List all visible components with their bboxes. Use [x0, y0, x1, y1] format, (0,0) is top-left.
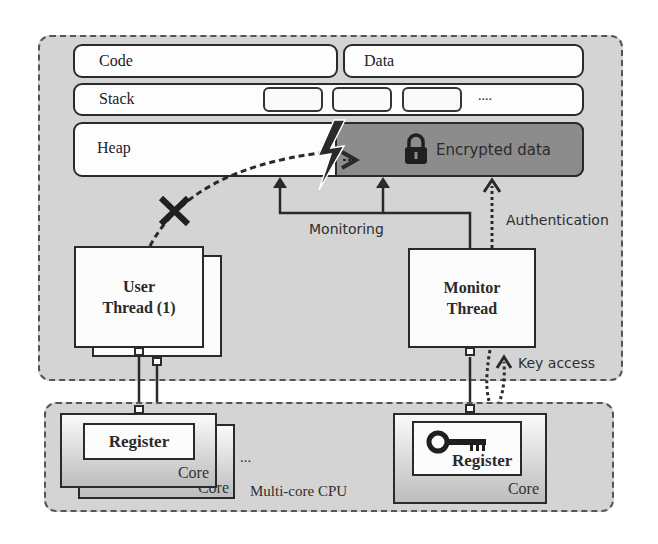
- register-left-label: Register: [109, 432, 169, 452]
- monitor-thread-line2: Thread: [444, 298, 501, 319]
- core-right-label: Core: [508, 480, 539, 498]
- core-left: Register Core: [60, 413, 217, 488]
- monitoring-label: Monitoring: [309, 221, 384, 237]
- code-segment: Code: [73, 44, 338, 78]
- user-thread-port-2: [152, 357, 162, 366]
- stack-frame-1: [263, 87, 323, 112]
- register-right-label: Register: [452, 451, 512, 471]
- data-label: Data: [364, 52, 394, 70]
- stack-segment: Stack ....: [73, 83, 584, 116]
- more-cores-ellipsis: ...: [240, 449, 251, 466]
- register-right: Register: [412, 421, 522, 476]
- stack-frame-3: [402, 87, 462, 112]
- user-thread: User Thread (1): [74, 246, 204, 348]
- register-left: Register: [83, 423, 195, 460]
- heap-label: Heap: [97, 139, 131, 157]
- monitor-thread-line1: Monitor: [444, 277, 501, 298]
- core-left-label: Core: [178, 464, 209, 482]
- user-thread-line1: User: [102, 276, 175, 297]
- monitor-thread: Monitor Thread: [408, 248, 536, 348]
- data-segment: Data: [343, 44, 584, 78]
- monitor-thread-port: [465, 347, 475, 356]
- stack-ellipsis: ....: [478, 88, 492, 104]
- user-thread-line2: Thread (1): [102, 297, 175, 318]
- stack-frame-2: [332, 87, 392, 112]
- encrypted-data-label: Encrypted data: [436, 141, 551, 159]
- authentication-label: Authentication: [506, 212, 609, 228]
- core-right-port: [465, 404, 475, 413]
- multicore-cpu-label: Multi-core CPU: [250, 483, 347, 500]
- user-thread-port-1: [134, 347, 144, 356]
- key-access-label: Key access: [518, 355, 595, 371]
- core-right: Register Core: [393, 413, 547, 504]
- lock-icon: [403, 133, 429, 165]
- code-label: Code: [99, 52, 133, 70]
- core-left-port: [134, 405, 144, 414]
- stack-label: Stack: [99, 90, 135, 108]
